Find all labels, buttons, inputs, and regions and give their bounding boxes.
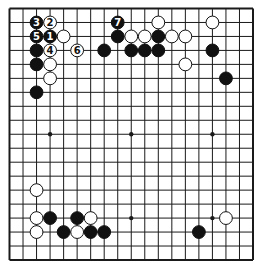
white-stone [206,16,219,29]
white-stone: 6 [71,44,84,57]
white-stone [30,212,43,225]
go-board-diagram: 3251467 [0,0,256,270]
white-stone [44,72,57,85]
black-stone: 7 [111,16,124,29]
white-stone [165,30,178,43]
black-stone [30,44,43,57]
star-point [210,132,214,136]
go-board-grid: 3251467 [0,0,256,270]
star-point [210,216,214,220]
white-stone [179,58,192,71]
black-stone [206,44,219,57]
black-stone [57,226,70,239]
white-stone [44,58,57,71]
black-stone [71,212,84,225]
black-stone: 1 [44,30,57,43]
white-stone [125,30,138,43]
move-number-label: 1 [47,31,54,42]
white-stone: 2 [44,16,57,29]
black-stone [192,226,205,239]
move-number-label: 3 [33,17,40,28]
white-stone [84,212,97,225]
white-stone: 4 [44,44,57,57]
white-stone [179,30,192,43]
star-point [48,132,52,136]
black-stone [98,226,111,239]
black-stone [111,30,124,43]
black-stone [84,226,97,239]
black-stone [125,44,138,57]
black-stone: 5 [30,30,43,43]
black-stone [30,86,43,99]
black-stone [138,44,151,57]
black-stone [220,72,233,85]
black-stone [152,44,165,57]
white-stone [71,226,84,239]
white-stone [220,212,233,225]
move-number-label: 7 [114,17,121,28]
move-number-label: 2 [47,17,54,28]
move-number-label: 4 [47,45,54,56]
black-stone [152,30,165,43]
star-point [129,132,133,136]
star-point [129,216,133,220]
black-stone [30,58,43,71]
white-stone [152,16,165,29]
move-number-label: 6 [74,45,81,56]
white-stone [57,30,70,43]
black-stone [44,212,57,225]
move-number-label: 5 [33,31,40,42]
white-stone [138,30,151,43]
black-stone [98,44,111,57]
white-stone [30,184,43,197]
black-stone: 3 [30,16,43,29]
white-stone [30,226,43,239]
